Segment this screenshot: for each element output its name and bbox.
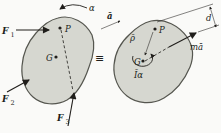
mass-center-g-marker-right [141,59,144,62]
rho-label: ρ̄ [129,33,135,43]
equivalence-symbol: ≡ [95,52,104,65]
ma-vector-label: mā [190,42,203,52]
mass-center-g-marker-left [54,55,57,58]
point-p-marker-right [153,27,156,30]
accel-vector-label: ā [107,11,113,21]
force-f1-subscript: 1 [11,31,15,39]
figure-svg: α F 1 P G F 2 F 3 ā ≡ d P ρ̄ [0,0,221,133]
accel-vector-arrow [101,21,120,29]
force-f3-label: F [56,113,64,123]
alpha-rotation-arrow [60,5,87,9]
point-p-marker-left [58,26,61,29]
force-f3-subscript: 3 [66,118,70,126]
parallel-line-through-p [157,4,213,22]
inertia-couple-label: Īα [133,69,143,80]
alpha-label: α [89,3,95,13]
body-outline-right [114,20,193,102]
force-f2-label: F [1,94,9,104]
distance-d-label: d [206,13,212,23]
force-f1-label: F [1,26,9,36]
figure-canvas: α F 1 P G F 2 F 3 ā ≡ d P ρ̄ [0,0,221,133]
force-f2-subscript: 2 [11,99,15,107]
point-p-label-left: P [64,24,71,34]
point-p-label-right: P [158,25,165,35]
mass-center-g-label-left: G [46,53,53,63]
